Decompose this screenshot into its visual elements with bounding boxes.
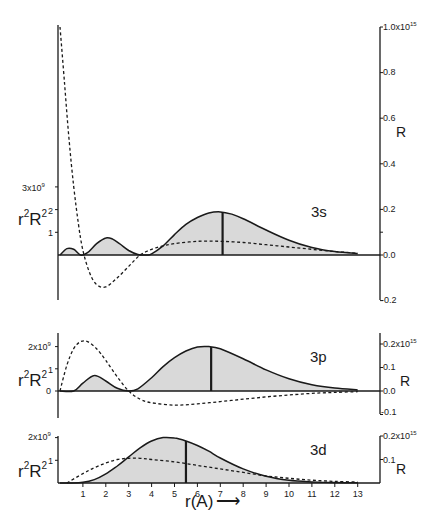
x-tick-10: 10 [284, 489, 294, 499]
3d-right-tick-0.2: 0.2x1015 [383, 430, 417, 441]
x-tick-13: 13 [353, 489, 363, 499]
radial-distribution-figure: 3x109 2 1 r2R2 3s R 1.0x1015 0.8 0.6 0.4… [0, 0, 432, 523]
3s-orbital-label: 3s [311, 203, 327, 220]
3s-right-tick-neg0.2: -0.2 [381, 295, 397, 305]
3p-left-tick-2: 2x109 [28, 341, 52, 352]
3s-left-tick-3: 3x109 [22, 182, 46, 193]
3d-left-tick-1: 1 [48, 456, 53, 466]
3s-right-tick-0.8: 0.8 [383, 67, 396, 77]
x-tick-5: 5 [172, 489, 177, 499]
3s-right-tick-0.4: 0.4 [383, 159, 396, 169]
x-tick-8: 8 [241, 489, 246, 499]
3d-left-axis-title: r2R2 [18, 460, 48, 481]
3p-left-tick-0: 0 [46, 386, 51, 396]
panel-3d [55, 436, 383, 483]
3s-right-tick-0.0: 0.0 [383, 250, 396, 260]
3p-right-tick-0.1: 0.1 [383, 362, 396, 372]
x-tick-4: 4 [149, 489, 154, 499]
3s-right-tick-1.0: 1.0x1015 [383, 21, 417, 32]
x-tick-12: 12 [330, 489, 340, 499]
3d-right-tick-0.1: 0.1 [383, 455, 396, 465]
x-axis-title: r(A)⟶ [185, 492, 240, 511]
x-tick-9: 9 [264, 489, 269, 499]
3p-right-tick-neg0.1: -0.1 [381, 407, 397, 417]
panel-3s [55, 25, 383, 301]
x-tick-11: 11 [307, 489, 316, 499]
3s-right-axis-title: R [396, 124, 406, 140]
x-tick-2: 2 [103, 489, 108, 499]
panel-3p [55, 333, 383, 418]
3p-left-axis-title: r2R2 [18, 369, 48, 390]
3d-right-axis-title: R [396, 461, 406, 477]
3d-orbital-label: 3d [310, 441, 327, 458]
3s-left-tick-2: 2 [48, 206, 53, 216]
3s-right-tick-0.2: 0.2 [383, 204, 396, 214]
3s-left-tick-1: 1 [48, 228, 53, 238]
3s-right-tick-0.6: 0.6 [383, 113, 396, 123]
x-tick-1: 1 [80, 489, 85, 499]
3p-orbital-label: 3p [310, 348, 327, 365]
x-tick-3: 3 [126, 489, 131, 499]
3p-left-tick-1: 1 [48, 365, 53, 375]
3p-right-tick-0.2: 0.2x1015 [383, 338, 417, 349]
3p-right-axis-title: R [400, 373, 410, 389]
3d-left-tick-2: 2x109 [28, 431, 52, 442]
3s-left-axis-title: r2R2 [18, 208, 48, 229]
3p-right-tick-0.0: 0.0 [383, 386, 396, 396]
